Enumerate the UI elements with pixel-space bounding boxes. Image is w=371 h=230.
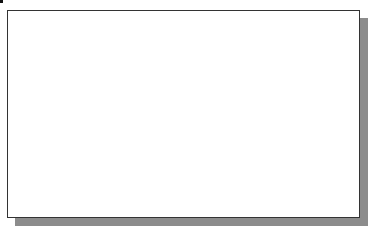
drawing-area[interactable]: [0, 0, 371, 230]
circle-center-point[interactable]: [0, 0, 3, 3]
